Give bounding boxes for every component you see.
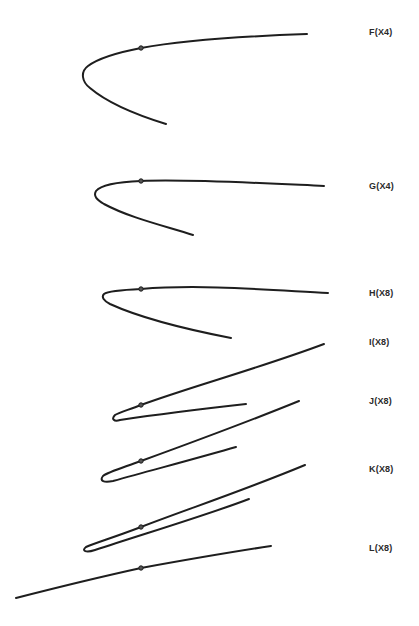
curve-L [16, 546, 271, 598]
curve-K [84, 465, 305, 551]
curve-G-path [95, 180, 324, 235]
curve-G-label: G(X4) [369, 181, 394, 191]
curve-family-diagram [0, 0, 419, 626]
curve-J [102, 401, 299, 482]
curve-J-marker-dot [139, 459, 143, 463]
curve-F-path [83, 34, 307, 124]
curve-I-path [113, 344, 324, 421]
curve-H-path [103, 287, 328, 338]
curve-K-marker-dot [139, 525, 143, 529]
curve-L-label: L(X8) [369, 543, 393, 553]
curve-H [103, 287, 328, 338]
curve-K-label: K(X8) [369, 464, 394, 474]
curve-K-path [84, 465, 305, 551]
curve-I-marker-dot [139, 403, 143, 407]
curve-F [83, 34, 307, 124]
curve-G-marker-dot [139, 179, 143, 183]
curve-F-label: F(X4) [369, 27, 393, 37]
curve-J-label: J(X8) [369, 396, 392, 406]
curve-G [95, 179, 324, 235]
curve-L-marker-dot [139, 566, 143, 570]
curve-J-path [102, 401, 299, 482]
curve-L-path [16, 546, 271, 598]
curve-I-label: I(X8) [369, 337, 390, 347]
curve-F-marker-dot [139, 46, 143, 50]
curve-H-label: H(X8) [369, 288, 394, 298]
curve-I [113, 344, 324, 421]
curve-H-marker-dot [139, 287, 143, 291]
